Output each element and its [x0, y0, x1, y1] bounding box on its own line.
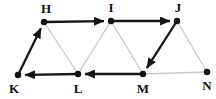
- node-M: [140, 71, 146, 77]
- node-label-L: L: [74, 81, 83, 96]
- node-I: [108, 18, 114, 24]
- node-label-J: J: [175, 0, 182, 15]
- node-label-H: H: [41, 1, 51, 16]
- node-label-I: I: [108, 0, 113, 15]
- edge-J-M: [147, 21, 177, 68]
- edge-K-H: [18, 28, 41, 75]
- graph-diagram: HIJKLMN: [0, 0, 216, 99]
- edge-I-L: [78, 21, 111, 74]
- node-label-K: K: [9, 81, 20, 96]
- edge-H-L: [44, 22, 78, 74]
- node-K: [15, 72, 21, 78]
- edge-J-N: [177, 21, 207, 72]
- edge-M-N: [143, 72, 207, 74]
- node-J: [174, 18, 180, 24]
- node-label-M: M: [137, 81, 149, 96]
- graph-canvas: HIJKLMN: [0, 0, 216, 99]
- edges-layer: [18, 21, 207, 75]
- node-N: [204, 69, 210, 75]
- node-label-N: N: [202, 78, 212, 93]
- edge-H-I: [44, 21, 104, 22]
- edge-L-K: [25, 74, 78, 75]
- node-L: [75, 71, 81, 77]
- labels-layer: HIJKLMN: [9, 0, 212, 96]
- edge-I-M: [111, 21, 143, 74]
- node-H: [41, 19, 47, 25]
